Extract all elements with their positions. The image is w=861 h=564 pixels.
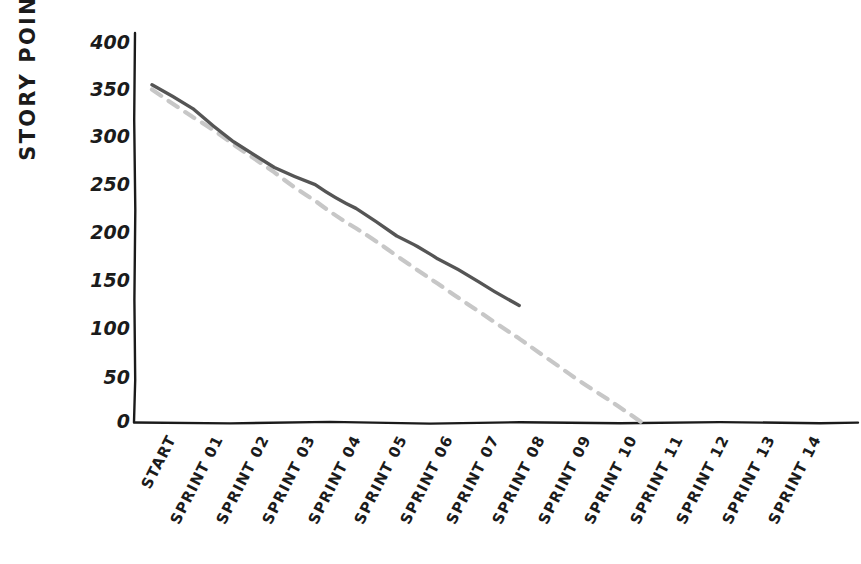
actual-remaining-line bbox=[152, 85, 519, 306]
burndown-chart: STORY POINTS 400 350 300 250 200 150 100… bbox=[0, 0, 861, 564]
series-actual-remaining bbox=[152, 85, 519, 306]
series-ideal-burndown bbox=[152, 90, 642, 423]
axes bbox=[134, 33, 858, 424]
y-axis-line bbox=[134, 33, 135, 422]
x-axis-line bbox=[134, 422, 858, 424]
ideal-burndown-line bbox=[152, 90, 642, 423]
plot-area bbox=[0, 0, 861, 564]
